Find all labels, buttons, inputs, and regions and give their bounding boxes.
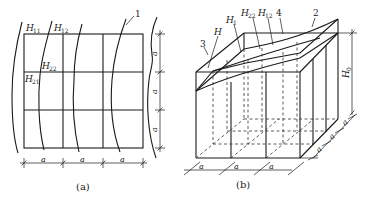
callout-2-label: 2: [313, 8, 319, 18]
label-h22: H 22: [240, 8, 256, 19]
dimension-vertical: a a a: [150, 30, 165, 152]
dimension-side: a a a: [300, 114, 357, 160]
leader-4: [280, 18, 283, 34]
label-h21: H 21: [24, 74, 40, 85]
contour-line: [73, 24, 82, 152]
contour-line: [148, 17, 157, 158]
figure-a-plan-grid: 1 H 11 H 12 H 22 H 21 a: [12, 9, 165, 192]
grid-outline: [24, 34, 143, 148]
surface-left-edge: [196, 49, 244, 91]
svg-text:0: 0: [345, 67, 352, 71]
label-h1: H 1: [225, 15, 237, 26]
label-h0: H 0: [341, 67, 352, 79]
svg-text:21: 21: [32, 78, 40, 85]
hidden-base-line: [231, 119, 279, 158]
surface-line: [244, 19, 338, 49]
label-h11: H 11: [25, 23, 41, 34]
label-h12: H 12: [53, 23, 69, 34]
label-h: H: [213, 27, 222, 37]
hidden-base-line: [266, 119, 314, 158]
dim-label-a: a: [120, 155, 125, 164]
leader-h12: [268, 18, 273, 45]
dim-label-a: a: [150, 51, 159, 56]
svg-text:1: 1: [233, 19, 237, 26]
hidden-base-line: [196, 119, 244, 158]
design-surface: [196, 33, 338, 91]
dim-label-a: a: [234, 162, 239, 171]
callout-3-label: 3: [200, 39, 206, 49]
label-h12: H 12: [257, 8, 273, 19]
caption-a: (a): [76, 181, 90, 192]
figure-canvas: 1 H 11 H 12 H 22 H 21 a: [0, 0, 365, 199]
callout-1-label: 1: [135, 9, 141, 19]
dim-label-a: a: [269, 162, 274, 171]
contour-line: [39, 21, 52, 150]
dim-label-a: a: [150, 89, 159, 94]
dim-label-a: a: [199, 162, 204, 171]
svg-text:22: 22: [248, 12, 256, 19]
callout-1-leader: [126, 16, 134, 25]
dimension-h0: H 0: [338, 29, 357, 116]
contour-line: [12, 22, 22, 153]
svg-text:11: 11: [33, 27, 41, 34]
dimension-horizontal: a a a: [20, 155, 147, 168]
callout-4-label: 4: [276, 8, 282, 18]
leader-h: [208, 36, 218, 68]
dimension-bottom: a a a: [184, 162, 304, 175]
dim-label-a: a: [80, 155, 85, 164]
contour-line: [111, 19, 126, 152]
svg-text:12: 12: [265, 12, 273, 19]
svg-text:12: 12: [61, 27, 69, 34]
caption-b: (b): [236, 179, 250, 190]
dim-label-a: a: [150, 127, 159, 132]
leader-h1: [234, 24, 241, 52]
figure-b-isometric-block: H H 1 H 22 H 12 4 2 3 H: [184, 8, 357, 190]
dim-label-a: a: [41, 155, 46, 164]
label-h22: H 22: [41, 61, 57, 72]
leader-2: [312, 18, 315, 27]
svg-text:22: 22: [49, 65, 57, 72]
